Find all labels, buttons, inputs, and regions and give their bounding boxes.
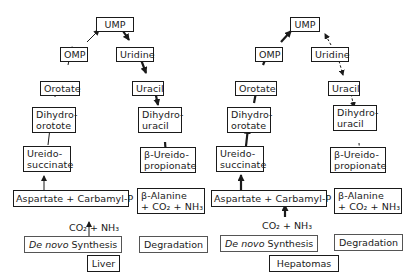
node-ureidopropionate-line1: β-Ureido- bbox=[334, 149, 382, 160]
node-uridine: Uridine bbox=[311, 47, 349, 62]
node-ureidopropionate: β-Ureido- propionate bbox=[330, 147, 386, 173]
node-dihydrouracil-line2: uracil bbox=[142, 120, 178, 131]
node-ureidosuccinate-line2: succinate bbox=[220, 159, 260, 170]
node-dihydrouracil: Dihydro- uracil bbox=[333, 105, 377, 131]
node-omp: OMP bbox=[255, 47, 283, 62]
node-dihydrouracil: Dihydro- uracil bbox=[138, 107, 182, 133]
node-dihydroorotate: Dihydro- orotate bbox=[227, 107, 271, 133]
node-dihydroorotate-line1: Dihydro- bbox=[36, 109, 72, 120]
node-ureidopropionate: β-Ureido- propionate bbox=[140, 147, 196, 173]
node-ump: UMP bbox=[96, 17, 134, 32]
node-dihydrouracil-line1: Dihydro- bbox=[142, 109, 178, 120]
co2-nh3-input: CO₂ + NH₃ bbox=[69, 222, 119, 233]
node-dihydroorotate-line2: orotote bbox=[36, 120, 72, 131]
node-beta-alanine-line1: β-Alanine bbox=[141, 190, 201, 201]
synthesis-label-rest: Synthesis bbox=[68, 239, 117, 250]
node-ureidosuccinate: Ureido- succinate bbox=[23, 146, 71, 172]
node-dihydroorotate-line1: Dihydro- bbox=[231, 109, 267, 120]
node-ump: UMP bbox=[290, 17, 320, 32]
degradation-label: Degradation bbox=[139, 236, 208, 253]
tissue-label-hepatomas: Hepatomas bbox=[269, 255, 339, 272]
node-dihydroorotate-line2: orotate bbox=[231, 120, 267, 131]
tissue-label-liver: Liver bbox=[87, 255, 120, 272]
node-beta-alanine-line2: + CO₂ + NH₃ bbox=[338, 201, 398, 212]
node-ureidosuccinate-line1: Ureido- bbox=[27, 148, 67, 159]
synthesis-label-rest: Synthesis bbox=[264, 238, 313, 249]
node-uracil: Uracil bbox=[328, 81, 360, 96]
node-ureidopropionate-line2: propionate bbox=[144, 160, 192, 171]
node-aspartate-carbamyl: Aspartate + Carbamyl-P bbox=[13, 190, 129, 207]
node-orotate: Orotate bbox=[235, 81, 277, 96]
node-dihydroorotate: Dihydro- orotote bbox=[32, 107, 76, 133]
node-ureidopropionate-line2: propionate bbox=[334, 160, 382, 171]
node-beta-alanine-line2: + CO₂ + NH₃ bbox=[141, 201, 201, 212]
node-ureidopropionate-line1: β-Ureido- bbox=[144, 149, 192, 160]
node-dihydrouracil-line2: uracil bbox=[337, 118, 373, 129]
node-beta-alanine-line1: β-Alanine bbox=[338, 190, 398, 201]
node-omp: OMP bbox=[60, 47, 88, 62]
synthesis-label-italic: De novo bbox=[225, 238, 264, 249]
node-beta-alanine: β-Alanine + CO₂ + NH₃ bbox=[137, 188, 205, 214]
degradation-label: Degradation bbox=[334, 234, 403, 251]
node-orotate: Orotate bbox=[40, 81, 80, 96]
node-uracil: Uracil bbox=[132, 81, 164, 96]
node-aspartate-carbamyl: Aspartate + Carbamyl-P bbox=[211, 190, 327, 207]
node-uridine: Uridine bbox=[116, 47, 154, 62]
co2-nh3-input: CO₂ + NH₃ bbox=[262, 220, 312, 231]
node-ureidosuccinate-line1: Ureido- bbox=[220, 148, 260, 159]
synthesis-label-italic: De novo bbox=[29, 239, 68, 250]
synthesis-label: De novo Synthesis bbox=[220, 235, 318, 252]
node-ureidosuccinate: Ureido- succinate bbox=[216, 146, 264, 172]
synthesis-label: De novo Synthesis bbox=[24, 236, 122, 253]
node-dihydrouracil-line1: Dihydro- bbox=[337, 107, 373, 118]
node-ureidosuccinate-line2: succinate bbox=[27, 159, 67, 170]
node-beta-alanine: β-Alanine + CO₂ + NH₃ bbox=[334, 188, 402, 214]
